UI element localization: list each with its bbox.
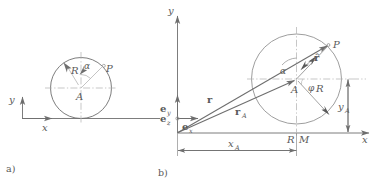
panel-b-caption: b) (158, 167, 168, 178)
panel-b-angle-alpha-label: α (280, 66, 286, 76)
panel-a-caption: a) (6, 163, 15, 174)
panel-b-basis-ex-subscript: x (189, 127, 193, 135)
panel-b-point-p-marker (327, 44, 330, 47)
panel-a-y-axis-label: y (8, 94, 15, 105)
panel-b-vector-rA-subscript: A (241, 112, 247, 120)
panel-b-rhat-arrowhead-left (301, 61, 309, 70)
panel-b-point-p-label: P (332, 39, 340, 50)
panel-b-point-M-label: M (298, 134, 310, 145)
panel-b-x-axis-label: x (362, 134, 368, 145)
panel-b-vector-rA-label: r (235, 106, 241, 117)
panel-b-angle-phi-arc (301, 79, 303, 85)
panel-a-point-p-marker (102, 64, 105, 67)
panel-a-angle-arc (81, 75, 91, 79)
panel-b-vector-r-label: r (207, 94, 213, 105)
panel-a-center-label: A (75, 91, 83, 102)
mechanics-figure-svg: y x R α P A a) (0, 0, 377, 184)
panel-b-basis-ez-subscript: z (166, 119, 171, 127)
panel-a: y x R α P A a) (6, 52, 160, 174)
panel-a-point-p-label: P (105, 63, 113, 74)
panel-b-dim-xA-label: x (228, 138, 234, 149)
panel-b-basis-ey-subscript: y (166, 109, 171, 117)
panel-b-angle-alpha-arc (282, 58, 297, 65)
panel-a-x-axis-label: x (42, 122, 48, 133)
panel-b-dim-yA-subscript: A (344, 107, 350, 115)
panel-b-dim-yA-label: y (337, 101, 344, 112)
panel-b-arc-R-label: R (286, 134, 295, 145)
panel-b-basis-ez-label: e (160, 113, 166, 124)
panel-a-angle-label: α (84, 61, 90, 71)
panel-b-dim-xA-subscript: A (234, 144, 240, 152)
panel-b: y x r r A r̂ P (158, 5, 369, 178)
panel-b-y-axis-label: y (167, 5, 174, 16)
panel-b-radius-label: R (315, 83, 324, 94)
panel-b-basis-ex-label: e (182, 121, 188, 132)
panel-b-vector-r (178, 46, 327, 133)
panel-b-angle-phi-label: φ (308, 83, 315, 93)
panel-b-vector-rhat-label: r̂ (314, 52, 320, 63)
figure-container: y x R α P A a) (0, 0, 377, 184)
panel-a-radius-label: R (70, 65, 79, 76)
panel-b-point-a-label: A (290, 84, 298, 95)
